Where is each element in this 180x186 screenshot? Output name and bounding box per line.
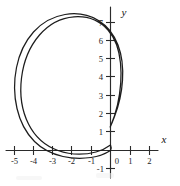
y-tick-label-4: 4 [99, 72, 104, 82]
x-tick-label--1: -1 [88, 156, 95, 166]
y-tick-label-3: 3 [99, 91, 103, 101]
axes-group [6, 7, 158, 178]
x-tick-label--4: -4 [30, 156, 38, 166]
scan-artifact-center [96, 173, 114, 178]
scan-artifact-left [16, 176, 42, 180]
x-tick-labels: -5 -4 -3 -2 -1 0 1 2 [11, 156, 152, 166]
x-tick-label--3: -3 [49, 156, 56, 166]
x-tick-label-1: 1 [128, 156, 132, 166]
y-tick-label-5: 5 [99, 54, 103, 64]
y-tick-label-1: 1 [99, 127, 103, 137]
x-tick-label-2: 2 [147, 156, 151, 166]
x-tick-label--2: -2 [68, 156, 75, 166]
figure-container: -5 -4 -3 -2 -1 0 1 2 7 6 5 4 3 2 1 -1 x … [0, 0, 180, 186]
coordinate-plot: -5 -4 -3 -2 -1 0 1 2 7 6 5 4 3 2 1 -1 x … [0, 0, 180, 186]
x-tick-label-0: 0 [115, 156, 119, 166]
y-axis-label: y [121, 6, 127, 18]
y-tick-label-7: 7 [99, 18, 104, 28]
y-tick-label-2: 2 [99, 109, 103, 119]
y-tick-label-6: 6 [99, 36, 104, 46]
x-axis-label: x [161, 133, 167, 145]
y-tick-label--1: -1 [97, 164, 104, 174]
ellipse-curve [15, 14, 123, 158]
x-tick-label--5: -5 [11, 156, 18, 166]
